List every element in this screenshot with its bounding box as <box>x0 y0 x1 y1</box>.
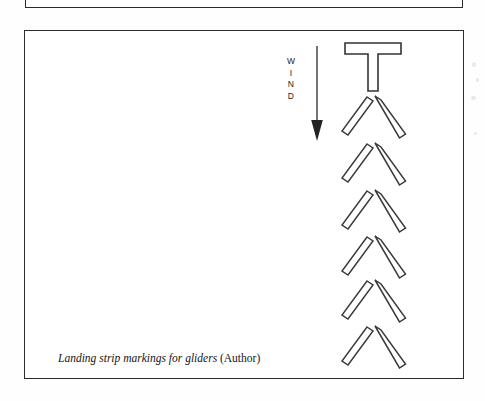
wind-letter-n: N <box>283 79 299 91</box>
wind-label: W I N D <box>283 56 299 102</box>
chevron-marker-6 <box>342 326 406 368</box>
chevron-marker-1 <box>342 96 406 138</box>
chevron-marker-2 <box>342 143 406 185</box>
caption-title: Landing strip markings for gliders <box>58 352 217 364</box>
scan-speckle <box>471 96 476 100</box>
figure-caption: Landing strip markings for gliders (Auth… <box>58 352 260 364</box>
caption-credit: (Author) <box>220 352 260 364</box>
wind-letter-i: I <box>283 68 299 80</box>
runway-markers-group <box>339 39 407 369</box>
scan-speckle <box>474 132 477 135</box>
figure-frame: W I N D <box>24 30 464 379</box>
scan-speckle <box>472 62 476 67</box>
landing-t-marker <box>345 43 401 91</box>
chevron-marker-3 <box>342 190 406 232</box>
wind-letter-w: W <box>283 56 299 68</box>
chevron-marker-5 <box>342 280 406 322</box>
scanned-page: W I N D <box>0 0 485 401</box>
wind-arrow-icon <box>305 43 329 143</box>
previous-figure-frame-partial <box>25 0 463 8</box>
scan-speckle <box>476 78 479 82</box>
wind-letter-d: D <box>283 91 299 103</box>
landing-strip-diagram: W I N D <box>25 31 463 378</box>
chevron-marker-4 <box>342 236 406 278</box>
